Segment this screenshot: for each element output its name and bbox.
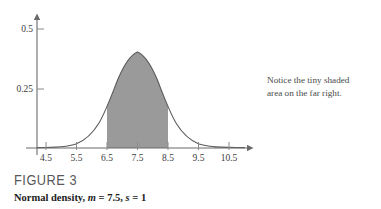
caption-mean-value: = 7.5, [96, 192, 126, 203]
normal-density-chart: 0.5 0.25 4.5 5.5 6.5 7.5 8.5 9.5 10.5 [0, 0, 260, 170]
y-tick-label-1: 0.25 [16, 84, 33, 94]
x-tick-label-4: 8.5 [162, 153, 174, 163]
main-shaded-area [37, 52, 245, 148]
figure-caption-block: FIGURE 3 Normal density, m = 7.5, s = 1 [14, 172, 294, 205]
annotation-line-2: area on the far right. [267, 87, 379, 100]
caption-prefix: Normal density, [14, 192, 88, 203]
x-tick-label-1: 5.5 [71, 153, 83, 163]
figure-caption-text: Normal density, m = 7.5, s = 1 [14, 191, 294, 205]
x-tick-label-2: 6.5 [101, 153, 113, 163]
figure-number-label: FIGURE 3 [14, 172, 260, 189]
caption-sd-value: = 1 [130, 192, 146, 203]
x-tick-label-5: 9.5 [193, 153, 205, 163]
annotation-line-1: Notice the tiny shaded [267, 74, 379, 87]
x-tick-label-0: 4.5 [40, 153, 52, 163]
y-tick-label-0: 0.5 [21, 24, 33, 34]
y-tick-marks [37, 29, 44, 89]
figure-page: 0.5 0.25 4.5 5.5 6.5 7.5 8.5 9.5 10.5 No… [0, 0, 381, 209]
x-tick-label-3: 7.5 [132, 153, 144, 163]
caption-mean-symbol: m [88, 192, 96, 203]
x-tick-label-6: 10.5 [221, 153, 238, 163]
x-tick-marks [46, 142, 229, 150]
annotation-note: Notice the tiny shaded area on the far r… [267, 74, 379, 100]
